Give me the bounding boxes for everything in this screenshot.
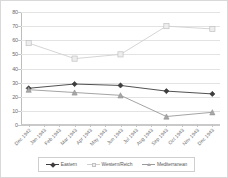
legend-label: Mediterranean xyxy=(157,162,187,167)
data-point-marker xyxy=(26,40,31,45)
legend-item-western-reich[interactable]: Western/Reich xyxy=(87,161,133,168)
y-tick-mark xyxy=(18,83,21,84)
y-tick-mark xyxy=(18,12,21,13)
line-chart: 80706050403020100 Dec 1942Jan 1943Feb 19… xyxy=(0,0,228,178)
x-tick-mark xyxy=(59,124,60,127)
chart-legend: EasternWestern/ReichMediterranean xyxy=(38,157,195,172)
data-point-marker xyxy=(210,91,215,96)
y-tick-mark xyxy=(18,54,21,55)
data-point-marker xyxy=(164,89,169,94)
legend-item-eastern[interactable]: Eastern xyxy=(46,161,77,168)
y-tick-mark xyxy=(18,69,21,70)
x-tick-mark xyxy=(151,124,152,127)
y-tick-mark xyxy=(18,97,21,98)
x-tick-mark xyxy=(29,124,30,127)
data-point-marker xyxy=(210,26,215,31)
x-tick-mark xyxy=(212,124,213,127)
legend-label: Western/Reich xyxy=(102,162,133,167)
legend-label: Eastern xyxy=(61,162,77,167)
legend-swatch-icon xyxy=(87,161,100,168)
x-tick-mark xyxy=(182,124,183,127)
x-tick-mark xyxy=(166,124,167,127)
data-point-marker xyxy=(118,83,123,88)
y-tick-mark xyxy=(18,40,21,41)
x-tick-mark xyxy=(90,124,91,127)
y-tick-mark xyxy=(18,111,21,112)
x-tick-mark xyxy=(197,124,198,127)
series-layer xyxy=(21,12,220,125)
x-tick-mark xyxy=(75,124,76,127)
legend-item-mediterranean[interactable]: Mediterranean xyxy=(142,161,187,168)
x-tick-mark xyxy=(105,124,106,127)
y-tick-mark xyxy=(18,26,21,27)
y-axis-tick-labels: 80706050403020100 xyxy=(1,12,18,125)
plot-area xyxy=(21,12,220,125)
legend-swatch-icon xyxy=(46,161,59,168)
x-tick-mark xyxy=(44,124,45,127)
x-tick-mark xyxy=(136,124,137,127)
data-point-marker xyxy=(164,24,169,29)
data-point-marker xyxy=(72,81,77,86)
data-point-marker xyxy=(72,56,77,61)
x-tick-mark xyxy=(121,124,122,127)
legend-swatch-icon xyxy=(142,161,155,168)
data-point-marker xyxy=(118,52,123,57)
x-axis-tick-labels: Dec 1942Jan 1943Feb 1943Mar 1943Apr 1943… xyxy=(21,125,220,157)
